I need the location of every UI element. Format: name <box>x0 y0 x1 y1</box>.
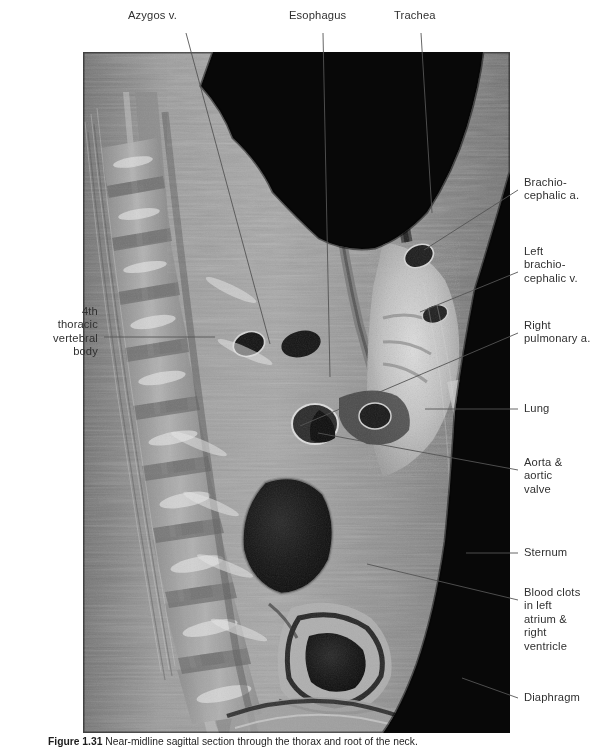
label-trachea: Trachea <box>394 9 436 22</box>
figure-caption-text: Near-midline sagittal section through th… <box>105 736 418 747</box>
figure-number: Figure 1.31 <box>48 736 102 747</box>
label-sternum: Sternum <box>524 546 606 559</box>
figure-container: Azygos v. Esophagus Trachea 4th thoracic… <box>0 0 606 747</box>
label-esophagus: Esophagus <box>289 9 346 22</box>
label-4th-thoracic-vertebral-body: 4th thoracic vertebral body <box>0 305 98 359</box>
label-azygos-vein: Azygos v. <box>128 9 177 22</box>
label-diaphragm: Diaphragm <box>524 691 606 704</box>
label-left-brachiocephalic-vein: Left brachio- cephalic v. <box>524 245 606 285</box>
label-right-pulmonary-artery: Right pulmonary a. <box>524 319 606 346</box>
anatomical-specimen-image <box>83 52 510 733</box>
label-brachiocephalic-artery: Brachio- cephalic a. <box>524 176 606 203</box>
figure-caption: Figure 1.31 Near-midline sagittal sectio… <box>48 736 588 747</box>
label-lung: Lung <box>524 402 606 415</box>
label-aorta-and-aortic-valve: Aorta & aortic valve <box>524 456 606 496</box>
label-blood-clots: Blood clots in left atrium & right ventr… <box>524 586 606 653</box>
